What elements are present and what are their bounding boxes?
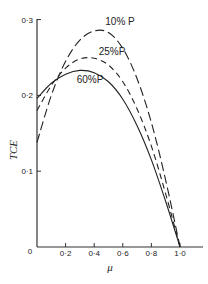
x-tick-label: 1·0: [174, 249, 186, 258]
data-series: [37, 30, 180, 247]
x-tick-label: 0·8: [146, 249, 158, 258]
series-label-25: 25%P: [99, 46, 126, 57]
x-tick-label: 0·6: [117, 249, 129, 258]
x-tick-label: 0·2: [60, 249, 72, 258]
y-tick-label: 0·3: [21, 16, 33, 25]
x-axis-label: μ: [106, 261, 113, 273]
series-line-2: [37, 70, 180, 247]
y-tick-label: 0·2: [21, 91, 33, 100]
x-tick-label: 0·4: [88, 249, 100, 258]
series-label-60: 60%P: [77, 74, 104, 85]
y-axis-label: TCE: [7, 140, 19, 160]
tce-vs-mu-chart: 0·20·40·60·81·00·10·20·3 0 10% P 25%P 60…: [0, 0, 208, 284]
y-tick-label: 0·1: [21, 167, 33, 176]
series-label-10: 10% P: [105, 16, 135, 27]
origin-label: 0: [28, 247, 33, 256]
series-line-0: [37, 30, 180, 247]
